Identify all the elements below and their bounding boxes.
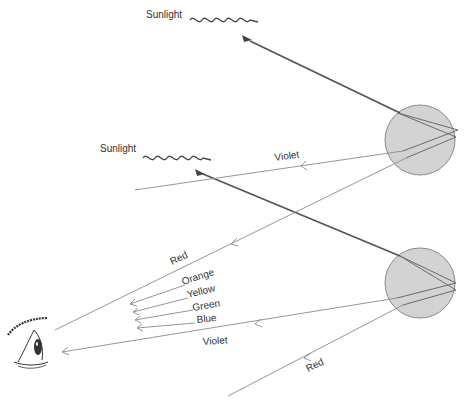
violet-ray-top bbox=[135, 151, 403, 190]
label-violet-top: Violet bbox=[274, 149, 300, 163]
label-green: Green bbox=[191, 297, 220, 313]
red-ray-top bbox=[55, 158, 406, 330]
lower-raindrop bbox=[385, 248, 456, 318]
violet-ray-bottom bbox=[62, 298, 397, 355]
label-violet-bottom: Violet bbox=[202, 334, 228, 347]
upper-raindrop bbox=[385, 105, 458, 175]
label-sunlight-top: Sunlight bbox=[146, 9, 182, 20]
blue-ray bbox=[137, 323, 195, 331]
eye-icon bbox=[8, 318, 48, 368]
rainbow-diagram: Sunlight Sunlight Violet Red Orange Yell… bbox=[0, 0, 470, 410]
sunlight-ray-top bbox=[190, 18, 400, 113]
label-yellow: Yellow bbox=[186, 282, 217, 300]
label-red-middle: Red bbox=[168, 249, 189, 267]
orange-ray bbox=[130, 285, 185, 306]
label-red-bottom: Red bbox=[304, 356, 325, 374]
red-ray-bottom bbox=[228, 305, 403, 396]
sunlight-ray-middle bbox=[143, 156, 400, 256]
label-sunlight-middle: Sunlight bbox=[100, 143, 136, 154]
green-ray bbox=[135, 310, 193, 323]
label-blue: Blue bbox=[196, 312, 217, 325]
